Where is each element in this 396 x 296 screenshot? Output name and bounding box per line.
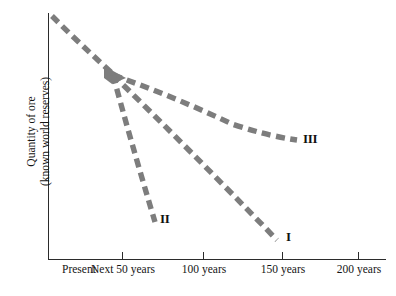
chart-axes xyxy=(49,13,387,260)
x-axis-ticks xyxy=(123,252,359,260)
curve-label-II: II xyxy=(160,211,170,226)
x-tick-label-100-years: 100 years xyxy=(182,263,227,276)
x-tick-label-150-years: 150 years xyxy=(261,263,306,276)
curve-label-III: III xyxy=(303,131,318,146)
x-tick-label-200-years: 200 years xyxy=(337,263,382,276)
chart-canvas: III I II Present Next 50 years 100 years… xyxy=(0,0,396,296)
curve-series-I xyxy=(113,75,277,240)
curve-trunk xyxy=(52,16,112,73)
x-tick-label-next-50-years: Next 50 years xyxy=(91,263,155,276)
ore-depletion-chart: III I II Present Next 50 years 100 years… xyxy=(0,0,396,296)
curve-label-I: I xyxy=(286,229,291,244)
curve-series-III xyxy=(113,75,297,140)
